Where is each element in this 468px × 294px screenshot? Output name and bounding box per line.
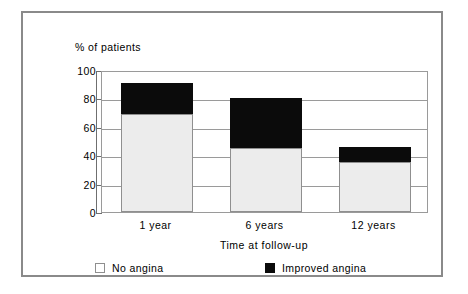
chart-legend: No anginaImproved angina — [95, 262, 425, 278]
figure-border: % of patients 020406080100 1 year6 years… — [21, 11, 443, 277]
legend-item-no-angina[interactable]: No angina — [95, 262, 163, 274]
stacked-bar[interactable] — [230, 98, 302, 212]
bar-segment-no-angina[interactable] — [339, 162, 411, 212]
stacked-bar[interactable] — [339, 147, 411, 212]
x-tick-label-6-years: 6 years — [246, 219, 284, 231]
bar-series-group — [102, 72, 427, 212]
plot-area — [101, 71, 428, 213]
y-axis-tick-labels: 020406080100 — [69, 71, 96, 213]
legend-label: No angina — [112, 262, 163, 274]
chart-figure: % of patients 020406080100 1 year6 years… — [0, 0, 468, 294]
bar-segment-no-angina[interactable] — [121, 114, 193, 212]
light-swatch-icon — [95, 263, 105, 273]
y-tick-label-80: 80 — [84, 93, 96, 105]
bar-segment-no-angina[interactable] — [230, 148, 302, 212]
legend-label: Improved angina — [282, 262, 366, 274]
legend-item-improved-angina[interactable]: Improved angina — [265, 262, 366, 274]
x-tick-label-1-year: 1 year — [139, 219, 171, 231]
y-tick-label-40: 40 — [84, 150, 96, 162]
x-axis-title: Time at follow-up — [220, 239, 308, 251]
stacked-bar[interactable] — [121, 83, 193, 212]
y-axis-line — [96, 71, 97, 214]
y-axis-title: % of patients — [75, 41, 141, 53]
bar-segment-improved-angina[interactable] — [230, 98, 302, 148]
y-tick-label-60: 60 — [84, 122, 96, 134]
y-tick-label-100: 100 — [77, 65, 96, 77]
y-tick-label-20: 20 — [84, 179, 96, 191]
dark-swatch-icon — [265, 263, 275, 273]
x-tick-label-12-years: 12 years — [351, 219, 395, 231]
bar-segment-improved-angina[interactable] — [121, 83, 193, 114]
bar-segment-improved-angina[interactable] — [339, 147, 411, 163]
